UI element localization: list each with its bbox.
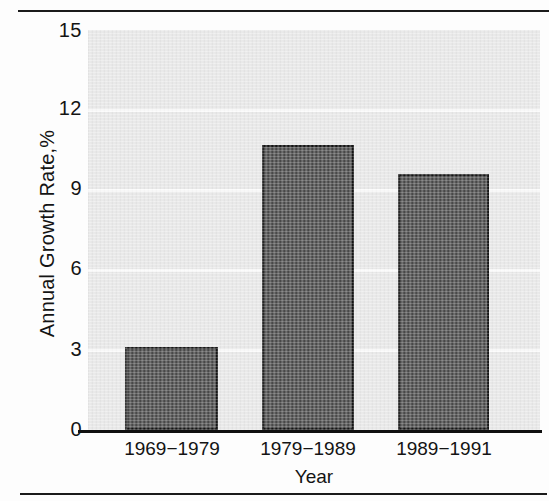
scanned-page: Annual Growth Rate,% 15 12 9 6 3 0 1969−… xyxy=(0,0,549,501)
bar-1989-1991 xyxy=(398,174,489,430)
x-axis-line xyxy=(86,430,542,433)
bar-1979-1989 xyxy=(262,145,354,430)
plot-area xyxy=(88,30,540,430)
x-tick-label-3: 1989−1991 xyxy=(354,438,534,460)
x-axis-tick-labels: 1969−1979 1979−1989 1989−1991 xyxy=(88,438,540,464)
bar-1969-1979 xyxy=(125,347,218,430)
y-tick-label-15: 15 xyxy=(0,20,82,40)
y-tick-label-9: 9 xyxy=(0,178,82,198)
gridline-12 xyxy=(88,109,540,112)
x-axis-title: Year xyxy=(88,466,540,488)
y-tick-label-0: 0 xyxy=(0,419,82,439)
y-tick-label-12: 12 xyxy=(0,98,82,118)
y-axis-tick-labels: 15 12 9 6 3 0 xyxy=(0,0,82,501)
y-tick-label-3: 3 xyxy=(0,339,82,359)
y-tick-label-6: 6 xyxy=(0,258,82,278)
bar-chart-figure: Annual Growth Rate,% 15 12 9 6 3 0 1969−… xyxy=(0,0,549,501)
